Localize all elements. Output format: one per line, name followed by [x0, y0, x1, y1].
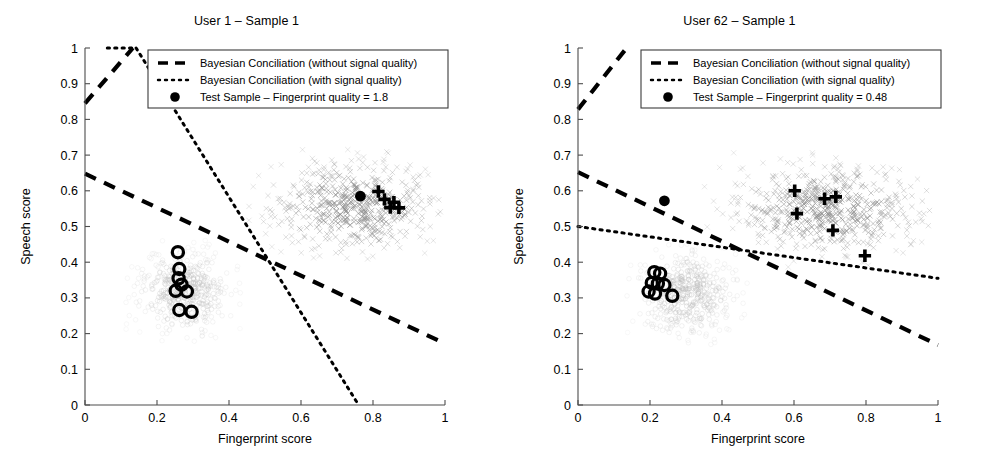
- y-tick-label: 0.9: [61, 77, 78, 91]
- y-tick-label: 0.3: [554, 291, 571, 305]
- x-tick-label: 0.4: [713, 411, 730, 425]
- x-tick-label: 0.2: [148, 411, 165, 425]
- x-tick-label: 0.6: [785, 411, 802, 425]
- x-axis-label: Fingerprint score: [711, 432, 805, 446]
- x-tick-label: 0: [82, 411, 89, 425]
- legend: Bayesian Conciliation (without signal qu…: [148, 50, 448, 108]
- y-tick-label: 1: [564, 42, 571, 56]
- x-tick-label: 1: [935, 411, 942, 425]
- y-tick-label: 0.6: [61, 184, 78, 198]
- legend-label: Bayesian Conciliation (with signal quali…: [200, 74, 402, 86]
- legend-label: Test Sample – Fingerprint quality = 1.8: [200, 91, 388, 103]
- y-tick-label: 0.9: [554, 77, 571, 91]
- legend-label: Bayesian Conciliation (with signal quali…: [693, 74, 895, 86]
- x-tick-label: 0.6: [292, 411, 309, 425]
- figure-root: User 1 – Sample 1 00.10.20.30.40.50.60.7…: [0, 0, 986, 471]
- y-tick-label: 0.8: [61, 113, 78, 127]
- y-axis-label: Speech score: [19, 188, 33, 264]
- y-axis-label: Speech score: [512, 188, 526, 264]
- x-tick-label: 0.2: [641, 411, 658, 425]
- y-tick-label: 0.1: [61, 363, 78, 377]
- y-tick-label: 0.4: [554, 256, 571, 270]
- x-tick-label: 0.4: [220, 411, 237, 425]
- y-tick-label: 0: [71, 399, 78, 413]
- x-axis-label: Fingerprint score: [218, 432, 312, 446]
- legend: Bayesian Conciliation (without signal qu…: [641, 50, 941, 108]
- y-tick-label: 0.4: [61, 256, 78, 270]
- legend-label: Test Sample – Fingerprint quality = 0.48: [693, 91, 887, 103]
- genuine-score-cloud: [246, 147, 443, 262]
- y-tick-label: 0.7: [554, 149, 571, 163]
- y-tick-label: 0.8: [554, 113, 571, 127]
- x-tick-label: 0: [575, 411, 582, 425]
- y-tick-label: 0.6: [554, 184, 571, 198]
- x-tick-label: 0.8: [364, 411, 381, 425]
- test-sample-marker: [355, 191, 366, 202]
- x-tick-label: 0.8: [857, 411, 874, 425]
- y-tick-label: 0.2: [61, 327, 78, 341]
- y-tick-label: 1: [71, 42, 78, 56]
- test-sample-marker: [659, 195, 670, 206]
- y-tick-label: 0.3: [61, 291, 78, 305]
- panel-right: User 62 – Sample 1 00.10.20.30.40.50.60.…: [493, 0, 986, 471]
- y-tick-label: 0: [564, 399, 571, 413]
- legend-label: Bayesian Conciliation (without signal qu…: [200, 57, 417, 69]
- x-tick-label: 1: [442, 411, 449, 425]
- y-tick-label: 0.5: [554, 220, 571, 234]
- legend-label: Bayesian Conciliation (without signal qu…: [693, 57, 910, 69]
- legend-circle-swatch: [663, 92, 673, 102]
- y-tick-label: 0.2: [554, 327, 571, 341]
- y-tick-label: 0.1: [554, 363, 571, 377]
- y-tick-label: 0.7: [61, 149, 78, 163]
- axes-right: 00.10.20.30.40.50.60.70.80.9100.20.40.60…: [493, 0, 986, 471]
- y-tick-label: 0.5: [61, 220, 78, 234]
- panel-left: User 1 – Sample 1 00.10.20.30.40.50.60.7…: [0, 0, 493, 471]
- axes-left: 00.10.20.30.40.50.60.70.80.9100.20.40.60…: [0, 0, 493, 471]
- legend-circle-swatch: [170, 92, 180, 102]
